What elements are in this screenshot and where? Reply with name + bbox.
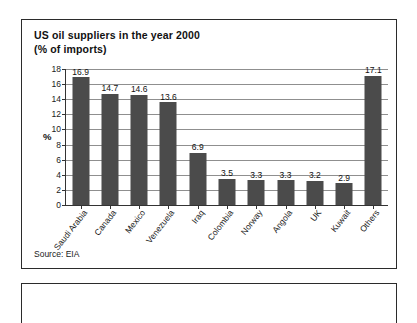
- x-axis-tick-label-text: Angola: [270, 208, 293, 234]
- bar[interactable]: 13.6: [160, 102, 177, 205]
- chart-figure-box: US oil suppliers in the year 2000(% of i…: [21, 19, 397, 269]
- bar-group: 3.5Colombia: [212, 69, 241, 205]
- bar-group: 3.3Angola: [271, 69, 300, 205]
- x-axis-tick-label-text: Kuwait: [330, 208, 352, 233]
- bar-value-label: 2.9: [338, 174, 350, 183]
- bar-value-label: 3.2: [309, 171, 321, 180]
- bar[interactable]: 16.9: [72, 77, 89, 205]
- bar-value-label: 3.5: [221, 169, 233, 178]
- bar-group: 13.6Venezuela: [154, 69, 183, 205]
- x-axis-tick-label-text: Colombia: [206, 208, 235, 242]
- x-axis-tick-label-text: Mexico: [124, 208, 147, 234]
- bar-value-label: 14.7: [102, 84, 119, 93]
- chart-title-line1: US oil suppliers in the year 2000: [34, 29, 200, 41]
- bar-value-label: 13.6: [160, 93, 177, 102]
- bar-group: 16.9Saudi Arabia: [66, 69, 95, 205]
- bar-value-label: 17.1: [365, 66, 382, 75]
- chart-title: US oil suppliers in the year 2000(% of i…: [34, 29, 364, 56]
- bar-group: 6.9Iraq: [183, 69, 212, 205]
- next-figure-box-partial: [21, 283, 397, 323]
- y-axis-tick-label: 14: [52, 95, 61, 104]
- y-axis-tick-label: 18: [52, 65, 61, 74]
- y-axis-title: %: [43, 131, 51, 142]
- x-axis-tick-label-text: Others: [359, 208, 381, 233]
- bar-value-label: 3.3: [250, 171, 262, 180]
- bar-value-label: 14.6: [131, 85, 148, 94]
- x-axis-tick-label-text: Venezuela: [145, 208, 176, 245]
- x-axis-tick-label-text: Iraq: [190, 208, 206, 225]
- bar-value-label: 3.3: [280, 171, 292, 180]
- bar[interactable]: 14.7: [101, 94, 118, 205]
- y-axis-tick-label: 4: [56, 171, 61, 180]
- x-axis-tick-label-text: Norway: [240, 208, 264, 236]
- source-note: Source: EIA: [34, 249, 79, 259]
- bar-group: 14.7Canada: [95, 69, 124, 205]
- chart-title-line2: (% of imports): [34, 43, 107, 55]
- bar-group: 3.3Norway: [242, 69, 271, 205]
- x-axis-tick-label-text: Saudi Arabia: [52, 208, 88, 251]
- x-axis-tick-label-text: UK: [309, 208, 323, 223]
- bar[interactable]: 14.6: [131, 95, 148, 205]
- bar-value-label: 16.9: [72, 68, 89, 77]
- y-axis-tick-label: 8: [56, 140, 61, 149]
- y-axis-tick-label: 16: [52, 80, 61, 89]
- y-axis-tick-label: 6: [56, 155, 61, 164]
- y-axis-tick-label: 10: [52, 125, 61, 134]
- bar[interactable]: 17.1: [365, 76, 382, 205]
- bar-group: 14.6Mexico: [125, 69, 154, 205]
- x-axis-tick-label-text: Canada: [93, 208, 118, 237]
- y-axis-tick-label: 0: [56, 201, 61, 210]
- bar-group: 3.2UK: [300, 69, 329, 205]
- bar-value-label: 6.9: [192, 143, 204, 152]
- y-axis-tick-label: 12: [52, 110, 61, 119]
- bar[interactable]: 6.9: [189, 153, 206, 205]
- bar-group: 2.9Kuwait: [329, 69, 358, 205]
- y-axis-tick-label: 2: [56, 186, 61, 195]
- bar-group: 17.1Others: [359, 69, 388, 205]
- y-axis-tick-mark: [62, 205, 66, 206]
- plot-area: 02468101214161816.9Saudi Arabia14.7Canad…: [65, 69, 388, 206]
